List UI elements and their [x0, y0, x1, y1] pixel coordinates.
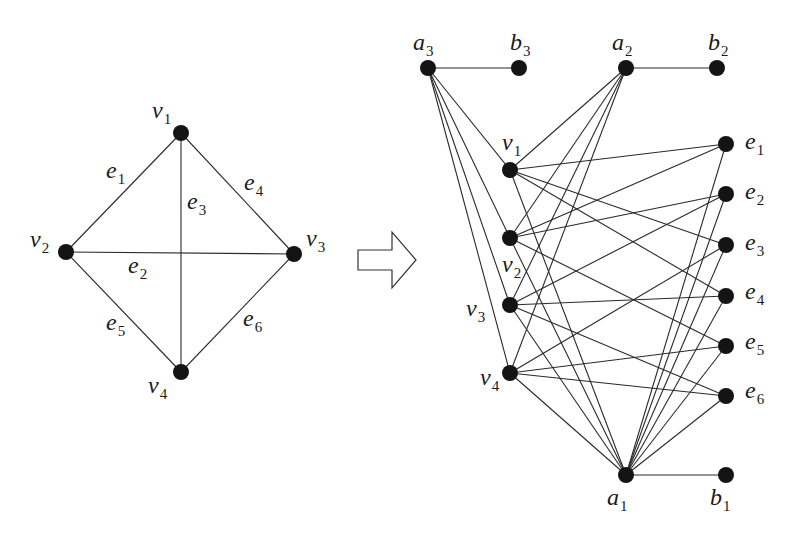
right-graph-edges [428, 68, 726, 475]
node-rv2 [502, 230, 518, 246]
vertex-label-v3: v3 [306, 225, 325, 255]
right-graph-labels: a3b3a2b2v1v2v3v4e1e2e3e4e5e6a1b1 [413, 29, 765, 514]
node-label-re3: e3 [745, 229, 764, 259]
edge-e2 [66, 252, 294, 254]
node-label-re2: e2 [745, 178, 764, 208]
edge-a2-rv3 [510, 68, 626, 305]
edge-a3-rv2 [428, 68, 510, 238]
node-label-re5: e5 [745, 328, 764, 358]
node-label-re1: e1 [745, 128, 764, 158]
edge-rv1-re1 [510, 144, 726, 170]
edge-label-e5: e5 [106, 309, 125, 339]
edge-a1-rv2 [510, 238, 626, 475]
left-graph-edges [66, 133, 294, 372]
node-rv1 [502, 162, 518, 178]
node-re5 [718, 338, 734, 354]
node-re1 [718, 136, 734, 152]
node-label-rv3: v3 [466, 295, 485, 325]
edge-rv2-re2 [510, 194, 726, 238]
edge-label-e1: e1 [106, 157, 125, 187]
node-re3 [718, 237, 734, 253]
edge-e4 [181, 133, 294, 254]
vertex-label-v1: v1 [152, 97, 171, 127]
edge-a1-re2 [626, 194, 726, 475]
node-b1 [718, 467, 734, 483]
edge-a1-re1 [626, 144, 726, 475]
edge-a1-rv4 [510, 373, 626, 475]
edge-a1-re4 [626, 296, 726, 475]
vertex-v3 [286, 246, 302, 262]
edge-e6 [181, 254, 294, 372]
node-label-re6: e6 [745, 377, 765, 407]
node-re2 [718, 186, 734, 202]
vertex-label-v2: v2 [30, 226, 49, 256]
edge-a1-re5 [626, 346, 726, 475]
edge-rv4-re6 [510, 373, 726, 396]
edge-a3-rv3 [428, 68, 510, 305]
node-label-b2: b2 [708, 29, 729, 59]
left-graph-labels: v1v2v3v4e1e2e3e4e5e6 [30, 97, 325, 402]
node-a3 [420, 60, 436, 76]
graph-transformation-diagram: v1v2v3v4e1e2e3e4e5e6 a3b3a2b2v1v2v3v4e1e… [0, 0, 795, 545]
edge-a1-re6 [626, 396, 726, 475]
vertex-v2 [58, 244, 74, 260]
edge-e5 [66, 252, 181, 372]
edge-rv3-re4 [510, 296, 726, 305]
edge-a2-rv1 [510, 68, 626, 170]
node-b3 [511, 60, 527, 76]
edge-a1-rv3 [510, 305, 626, 475]
edge-a1-rv1 [510, 170, 626, 475]
vertex-label-v4: v4 [148, 372, 168, 402]
node-re4 [718, 288, 734, 304]
edge-label-e2: e2 [128, 252, 147, 282]
edge-label-e3: e3 [187, 188, 206, 218]
node-b2 [709, 60, 725, 76]
node-a2 [618, 60, 634, 76]
node-label-rv1: v1 [502, 129, 521, 159]
edge-rv1-re3 [510, 170, 726, 245]
edge-e1 [66, 133, 181, 252]
node-label-b1: b1 [710, 484, 731, 514]
node-re6 [718, 388, 734, 404]
node-label-a2: a2 [612, 29, 633, 59]
node-label-rv4: v4 [480, 364, 500, 394]
edge-a2-rv4 [510, 68, 626, 373]
edge-rv1-re4 [510, 170, 726, 296]
node-a1 [618, 467, 634, 483]
node-rv3 [502, 297, 518, 313]
transform-arrow-icon [358, 232, 416, 288]
node-label-re4: e4 [745, 278, 765, 308]
node-label-b3: b3 [510, 29, 531, 59]
vertex-v4 [173, 364, 189, 380]
edge-a3-rv1 [428, 68, 510, 170]
node-label-a3: a3 [413, 29, 434, 59]
edge-label-e6: e6 [243, 305, 263, 335]
edge-a3-rv4 [428, 68, 510, 373]
edge-label-e4: e4 [244, 169, 264, 199]
edge-rv2-re5 [510, 238, 726, 346]
node-label-a1: a1 [607, 484, 628, 514]
vertex-v1 [173, 125, 189, 141]
node-rv4 [502, 365, 518, 381]
